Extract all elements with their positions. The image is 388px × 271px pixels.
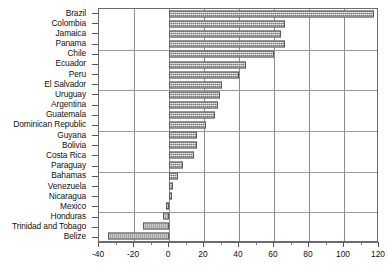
y-axis-category-labels: BrazilColombiaJamaicaPanamaChileEcuadorP… bbox=[0, 8, 90, 242]
x-axis-tick-label: 20 bbox=[198, 249, 207, 259]
y-axis-label: Trinidad and Tobago bbox=[0, 222, 90, 232]
y-axis-label: Honduras bbox=[0, 211, 90, 221]
bar-row bbox=[99, 211, 377, 221]
bar bbox=[169, 142, 197, 149]
y-axis-label-text: Brazil bbox=[66, 9, 86, 18]
bar-row bbox=[99, 120, 377, 130]
bar-row bbox=[99, 191, 377, 201]
bar-row bbox=[99, 160, 377, 170]
x-axis-major-tick bbox=[238, 242, 239, 247]
y-axis-label-text: Jamaica bbox=[56, 29, 87, 38]
bar-row bbox=[99, 70, 377, 80]
bar-row bbox=[99, 100, 377, 110]
bar-row bbox=[99, 231, 377, 241]
y-axis-label: Paraguay bbox=[0, 161, 90, 171]
y-axis-label-text: Nicaragua bbox=[49, 192, 86, 201]
x-axis-minor-tick bbox=[186, 242, 187, 245]
y-axis-label-text: Bolivia bbox=[62, 141, 86, 150]
x-axis-tick-label: -20 bbox=[127, 249, 139, 259]
x-axis-minor-tick bbox=[291, 242, 292, 245]
y-axis-label: Bolivia bbox=[0, 140, 90, 150]
y-axis-label-text: Peru bbox=[69, 70, 86, 79]
y-axis-label: Peru bbox=[0, 69, 90, 79]
y-axis-label: Venezuela bbox=[0, 181, 90, 191]
bar bbox=[169, 11, 374, 18]
x-axis-major-tick bbox=[378, 242, 379, 247]
x-axis-major-tick bbox=[168, 242, 169, 247]
x-axis-minor-tick bbox=[361, 242, 362, 245]
bar bbox=[108, 233, 169, 240]
bar-row bbox=[99, 29, 377, 39]
x-axis-major-tick bbox=[308, 242, 309, 247]
bar bbox=[169, 182, 173, 189]
y-axis-label: Bahamas bbox=[0, 171, 90, 181]
bar-row bbox=[99, 59, 377, 69]
bar-row bbox=[99, 19, 377, 29]
y-axis-label-text: Ecuador bbox=[56, 59, 87, 68]
x-axis-tick-label: 100 bbox=[336, 249, 350, 259]
x-axis-tick-label: -40 bbox=[92, 249, 104, 259]
bar bbox=[143, 223, 169, 230]
bar-series bbox=[99, 9, 377, 241]
x-axis-major-tick bbox=[273, 242, 274, 247]
bar bbox=[169, 61, 246, 68]
bar-row bbox=[99, 39, 377, 49]
bar bbox=[169, 111, 215, 118]
bar-row bbox=[99, 201, 377, 211]
bar-row bbox=[99, 130, 377, 140]
y-axis-label: Dominican Republic bbox=[0, 120, 90, 130]
y-axis-label-text: Dominican Republic bbox=[13, 120, 86, 129]
y-axis-label: El Salvador bbox=[0, 79, 90, 89]
y-axis-label-text: Uruguay bbox=[55, 90, 86, 99]
bar-row bbox=[99, 90, 377, 100]
y-axis-label-text: Guyana bbox=[57, 131, 86, 140]
y-axis-label-text: Belize bbox=[64, 232, 86, 241]
x-axis-minor-tick bbox=[116, 242, 117, 245]
y-axis-label: Panama bbox=[0, 39, 90, 49]
bar bbox=[169, 101, 218, 108]
bar-row bbox=[99, 49, 377, 59]
x-axis-tick-label: 120 bbox=[371, 249, 385, 259]
y-axis-label: Argentina bbox=[0, 100, 90, 110]
bar bbox=[169, 41, 285, 48]
y-axis-label-text: Panama bbox=[55, 39, 86, 48]
y-axis-label-text: Colombia bbox=[51, 19, 86, 28]
bar bbox=[169, 51, 274, 58]
y-axis-label-text: El Salvador bbox=[44, 80, 86, 89]
y-axis-label: Uruguay bbox=[0, 89, 90, 99]
bar bbox=[166, 202, 170, 209]
bar-row bbox=[99, 171, 377, 181]
bar bbox=[169, 81, 222, 88]
y-axis-label: Guatemala bbox=[0, 110, 90, 120]
bar bbox=[169, 172, 178, 179]
y-axis-label: Mexico bbox=[0, 201, 90, 211]
x-axis-tick-label: 60 bbox=[268, 249, 277, 259]
x-axis-minor-tick bbox=[151, 242, 152, 245]
y-axis-label-text: Guatemala bbox=[46, 110, 86, 119]
bar-row bbox=[99, 140, 377, 150]
y-axis-label-text: Chile bbox=[67, 49, 86, 58]
bar-row bbox=[99, 150, 377, 160]
y-axis-label-text: Costa Rica bbox=[46, 151, 86, 160]
bar bbox=[169, 91, 220, 98]
y-axis-label: Ecuador bbox=[0, 59, 90, 69]
bar bbox=[169, 152, 194, 159]
horizontal-bar-chart: BrazilColombiaJamaicaPanamaChileEcuadorP… bbox=[0, 0, 388, 271]
x-axis: -40-20020406080100120 bbox=[98, 242, 378, 271]
x-axis-major-tick bbox=[343, 242, 344, 247]
y-axis-label: Belize bbox=[0, 232, 90, 242]
y-axis-label-text: Paraguay bbox=[51, 161, 86, 170]
y-axis-label-text: Honduras bbox=[50, 212, 86, 221]
y-axis-label: Brazil bbox=[0, 8, 90, 18]
bar-row bbox=[99, 181, 377, 191]
x-axis-minor-tick bbox=[221, 242, 222, 245]
x-axis-major-tick bbox=[203, 242, 204, 247]
bar bbox=[169, 162, 183, 169]
y-axis-label: Guyana bbox=[0, 130, 90, 140]
y-axis-label-text: Bahamas bbox=[51, 171, 86, 180]
bar bbox=[169, 21, 285, 28]
y-axis-label: Costa Rica bbox=[0, 150, 90, 160]
x-axis-major-tick bbox=[133, 242, 134, 247]
y-axis-label: Nicaragua bbox=[0, 191, 90, 201]
bar-row bbox=[99, 221, 377, 231]
